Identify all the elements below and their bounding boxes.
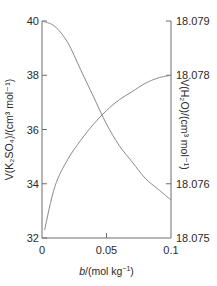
curves (42, 21, 171, 230)
left-tick-label: 32 (27, 232, 39, 244)
right-tick-label: 18.076 (176, 178, 210, 190)
left-tick-label: 40 (27, 15, 39, 27)
axes (42, 21, 171, 238)
y-axis-left-label: V(K₂SO₄)/(cm³ mol⁻¹) (3, 79, 15, 180)
left-tick-label: 38 (27, 69, 39, 81)
x-tick-label: 0 (39, 244, 45, 256)
right-tick-label: 18.075 (176, 232, 210, 244)
right-tick-label: 18.079 (176, 15, 210, 27)
left-tick-label: 34 (27, 178, 39, 190)
x-tick-label: 0.1 (163, 244, 178, 256)
x-tick-label: 0.05 (96, 244, 117, 256)
axis-frame (42, 21, 171, 238)
chart: 403836343218.07918.07818.07618.07500.050… (0, 0, 217, 286)
y-axis-right-label: V(H₂O)/(cm³ mol⁻¹) (179, 79, 191, 170)
k2so4-curve (45, 75, 171, 230)
left-tick-label: 36 (27, 124, 39, 136)
x-axis-label: b/(mol kg−1) (79, 265, 134, 277)
